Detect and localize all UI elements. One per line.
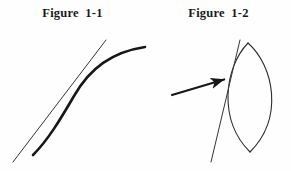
figure-1-1-panel: Figure 1-1 [0, 0, 145, 171]
lens-right-arc-figure-1-2 [248, 43, 272, 152]
curve-figure-1-1 [33, 47, 145, 155]
figure-1-1-drawing [0, 0, 145, 171]
tangent-line-figure-1-1 [13, 40, 106, 162]
figure-1-2-drawing [146, 0, 291, 171]
tangent-line-figure-1-2 [211, 40, 240, 162]
figure-page: Figure 1-1 Figure 1-2 [0, 0, 291, 171]
figure-1-2-panel: Figure 1-2 [146, 0, 291, 171]
lens-left-arc-figure-1-2 [228, 43, 250, 152]
pointer-arrow-figure-1-2 [172, 79, 224, 95]
